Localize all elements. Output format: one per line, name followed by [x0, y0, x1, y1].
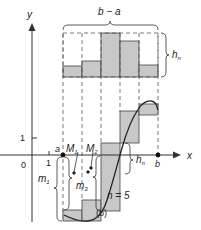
m1-label: m1: [38, 173, 50, 185]
point-b-label: b: [155, 159, 160, 169]
figure-caption: (b): [96, 208, 107, 218]
lower-height-brace: [125, 143, 133, 174]
top-brace: [63, 21, 158, 30]
x-axis-arrow-icon: [173, 152, 181, 159]
riemann-oscillation-diagram: y x 0 1 1 a b b − a hn hn M1 M2 m1 m3 n …: [0, 0, 201, 230]
top-bar-3: [101, 33, 120, 77]
M2-label: M2: [86, 143, 98, 155]
lower-height-label: hn: [136, 154, 146, 166]
m3-label: m3: [76, 180, 88, 192]
point-b-icon: [156, 153, 161, 158]
y-tick-label: 1: [20, 133, 25, 143]
axes: [0, 23, 181, 222]
M1-brace: [64, 157, 72, 210]
top-bar-1: [63, 66, 82, 77]
n-label: n = 5: [107, 190, 130, 201]
top-bar-4: [120, 41, 139, 77]
top-histogram: [63, 33, 158, 77]
x-axis-label: x: [186, 150, 193, 161]
point-a-label: a: [55, 144, 60, 154]
top-height-label: hn: [172, 49, 182, 61]
x-tick-label: 1: [46, 158, 51, 168]
origin-label: 0: [21, 160, 26, 170]
top-bar-2: [82, 61, 101, 77]
top-height-brace: [161, 33, 169, 77]
y-axis-label: y: [26, 9, 33, 20]
y-axis-arrow-icon: [29, 23, 36, 31]
M1-label: M1: [66, 143, 78, 155]
m1-brace: [54, 157, 62, 221]
top-bar-5: [139, 65, 158, 77]
top-brace-label: b − a: [98, 6, 121, 17]
